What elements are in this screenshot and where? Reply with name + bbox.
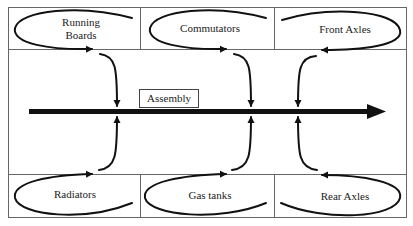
label-front-axles: Front Axles <box>300 23 390 36</box>
label-running-boards-line2: Boards <box>45 29 117 42</box>
label-running-boards-line1: Running <box>45 16 117 29</box>
label-rear-axles: Rear Axles <box>305 190 385 203</box>
feed-rear-axles <box>298 117 317 170</box>
assembly-label: Assembly <box>139 89 199 108</box>
feed-radiators <box>99 117 117 170</box>
assembly-line-arrow <box>29 104 386 119</box>
label-commutators: Commutators <box>165 22 255 35</box>
feed-commutators <box>234 54 251 106</box>
feed-running-boards <box>100 54 117 106</box>
label-running-boards: Running Boards <box>45 16 117 42</box>
feed-gas-tanks <box>232 117 251 170</box>
feed-front-axles <box>298 56 316 106</box>
label-radiators: Radiators <box>40 188 110 201</box>
label-gas-tanks: Gas tanks <box>170 189 250 202</box>
